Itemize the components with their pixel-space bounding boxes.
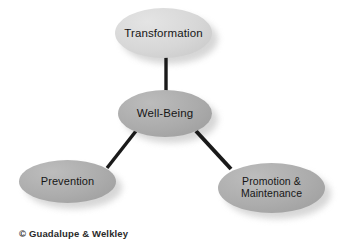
node-promotion-label: Promotion & Maintenance: [241, 176, 302, 200]
copyright-caption: © Guadalupe & Welkley: [19, 228, 128, 239]
node-prevention-label: Prevention: [41, 175, 95, 187]
edge-wellbeing-prevention: [107, 131, 136, 168]
node-transformation-label: Transformation: [124, 27, 202, 40]
node-prevention[interactable]: Prevention: [19, 160, 116, 203]
node-promotion[interactable]: Promotion & Maintenance: [218, 163, 325, 213]
node-wellbeing-label: Well-Being: [137, 107, 193, 120]
node-wellbeing[interactable]: Well-Being: [118, 90, 212, 137]
diagram-canvas: Transformation Well-Being Prevention Pro…: [0, 0, 340, 251]
node-transformation[interactable]: Transformation: [115, 8, 212, 58]
